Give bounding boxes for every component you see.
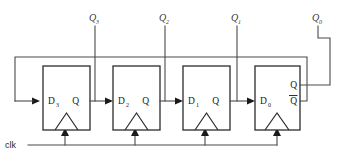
output-tap-line-q0 bbox=[300, 26, 330, 85]
output-label-q3: Q 3 bbox=[89, 12, 99, 25]
flipflop-ff0-qbar-label: Q bbox=[290, 96, 297, 106]
flipflop-ff1-d-label: D bbox=[188, 96, 195, 106]
flipflop-ff2-d-label: D bbox=[118, 96, 125, 106]
flipflop-ff3-d-subscript: 3 bbox=[56, 102, 59, 108]
signal-arrow-icon-d0 bbox=[247, 98, 255, 105]
flipflop-ff0[interactable]: D 0 Q Q bbox=[255, 66, 300, 130]
output-label-q2-subscript: 2 bbox=[166, 19, 169, 25]
output-label-q0: Q 0 bbox=[312, 12, 322, 25]
flipflop-ff1-q-label: Q bbox=[212, 96, 219, 106]
flipflop-ff3-q-label: Q bbox=[72, 96, 79, 106]
output-label-q3-subscript: 3 bbox=[95, 19, 99, 25]
flipflop-ff1-d-subscript: 1 bbox=[196, 102, 199, 108]
output-label-q2: Q 2 bbox=[159, 12, 169, 25]
circuit-diagram: D 3 Q D 2 Q D 1 Q D 0 Q Q bbox=[0, 0, 340, 165]
flipflop-ff0-d-label: D bbox=[260, 96, 267, 106]
output-label-q1-subscript: 1 bbox=[238, 19, 241, 25]
flipflop-ff3[interactable]: D 3 Q bbox=[43, 66, 90, 130]
flipflop-ff2-q-label: Q bbox=[142, 96, 149, 106]
flipflop-ff1[interactable]: D 1 Q bbox=[183, 66, 230, 130]
clock-label: clk bbox=[5, 140, 16, 150]
output-label-q1: Q 1 bbox=[231, 12, 241, 25]
signal-arrow-icon-d1 bbox=[175, 98, 183, 105]
output-label-q0-subscript: 0 bbox=[319, 19, 322, 25]
circuit-canvas: D 3 Q D 2 Q D 1 Q D 0 Q Q bbox=[0, 0, 340, 165]
flipflop-ff0-q-label: Q bbox=[290, 80, 297, 90]
signal-arrow-icon-d2 bbox=[105, 98, 113, 105]
flipflop-ff2-d-subscript: 2 bbox=[126, 102, 129, 108]
flipflop-ff0-d-subscript: 0 bbox=[268, 102, 271, 108]
flipflop-ff3-d-label: D bbox=[48, 96, 55, 106]
flipflop-ff2[interactable]: D 2 Q bbox=[113, 66, 160, 130]
